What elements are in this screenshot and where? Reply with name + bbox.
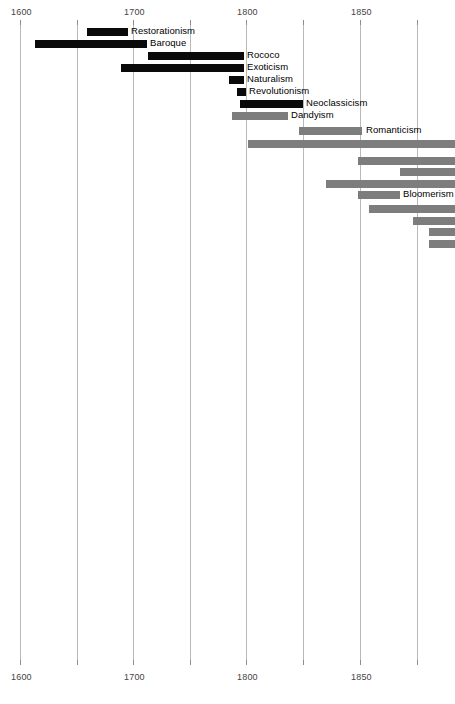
bar-label-neoclassicism: Neoclassicism: [306, 98, 367, 108]
bar-label-baroque: Baroque: [150, 38, 186, 48]
axis-tick-label-bottom-1800: 1800: [237, 672, 258, 682]
bar-label-romanticism: Romanticism: [366, 125, 421, 135]
bar-neoclassicism: [240, 100, 303, 108]
bar-label-exoticism: Exoticism: [247, 62, 288, 72]
bar-revolutionism: [237, 88, 246, 96]
gridline-6: [360, 25, 361, 665]
bar-naturalism: [229, 76, 244, 84]
bar-row-9: [248, 140, 455, 148]
bar-label-naturalism: Naturalism: [247, 74, 293, 84]
tickmark-bottom-6: [360, 660, 361, 665]
bar-label-rococo: Rococo: [247, 50, 280, 60]
tickmark-bottom-1: [77, 660, 78, 665]
tickmark-top-4: [246, 20, 247, 25]
axis-tick-label-top-1850: 1850: [351, 7, 372, 17]
bar-row-11: [400, 168, 455, 176]
gridline-1: [77, 25, 78, 665]
axis-tick-label-top-1800: 1800: [237, 7, 258, 17]
bar-baroque: [35, 40, 147, 48]
tickmark-top-5: [303, 20, 304, 25]
tickmark-bottom-2: [133, 660, 134, 665]
tickmark-bottom-3: [190, 660, 191, 665]
bar-row-17: [429, 240, 455, 248]
bar-exoticism: [121, 64, 244, 72]
bar-rococo: [148, 52, 244, 60]
axis-tick-label-bottom-1600: 1600: [11, 672, 32, 682]
tickmark-bottom-5: [303, 660, 304, 665]
bar-label-restorationism: Restorationism: [131, 26, 195, 36]
bar-label-dandyism: Dandyism: [291, 110, 334, 120]
bar-romanticism: [299, 127, 362, 135]
bar-label-bloomerism: Bloomerism: [403, 189, 454, 199]
bar-restorationism: [87, 28, 128, 36]
bar-row-16: [429, 228, 455, 236]
axis-tick-label-top-1700: 1700: [124, 7, 145, 17]
gridline-0: [20, 25, 21, 665]
tickmark-top-1: [77, 20, 78, 25]
gridline-7: [417, 25, 418, 665]
bar-dandyism: [232, 112, 288, 120]
gridline-2: [133, 25, 134, 665]
axis-tick-label-bottom-1700: 1700: [124, 672, 145, 682]
bar-row-10: [358, 157, 455, 165]
tickmark-top-0: [20, 20, 21, 25]
bar-row-12: [326, 180, 455, 188]
tickmark-bottom-0: [20, 660, 21, 665]
axis-tick-label-top-1600: 1600: [11, 7, 32, 17]
gridline-3: [190, 25, 191, 665]
tickmark-bottom-4: [246, 660, 247, 665]
gridline-4: [246, 25, 247, 665]
axis-tick-label-bottom-1850: 1850: [351, 672, 372, 682]
bar-row-15: [413, 217, 455, 225]
bar-label-revolutionism: Revolutionism: [249, 86, 309, 96]
tickmark-top-6: [360, 20, 361, 25]
plot-area: 1600170018001850 1600170018001850 Restor…: [0, 0, 455, 704]
timeline-chart: 1600170018001850 1600170018001850 Restor…: [0, 0, 455, 704]
bar-bloomerism: [358, 191, 400, 199]
bar-row-14: [369, 205, 455, 213]
tickmark-bottom-7: [417, 660, 418, 665]
tickmark-top-7: [417, 20, 418, 25]
gridline-5: [303, 25, 304, 665]
